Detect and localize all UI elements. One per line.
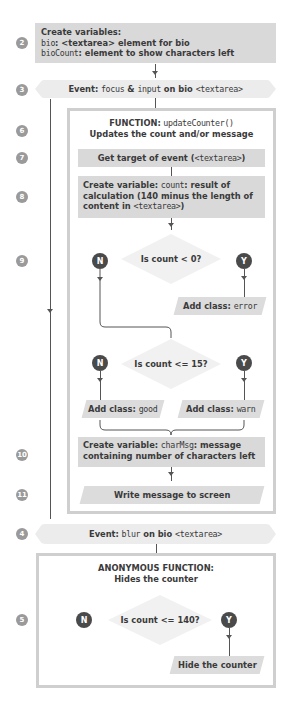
write-message-box: Write message to screen [80, 486, 265, 504]
anon-function-title: ANONYMOUS FUNCTION: [39, 563, 273, 574]
arrow-down-icon [97, 378, 103, 382]
no-branch-badge: N [76, 612, 92, 628]
event-label: Event: [89, 529, 119, 539]
event-code-blur: blur [122, 529, 141, 539]
no-branch-badge: N [92, 355, 108, 371]
hide-counter-box: Hide the counter [170, 656, 265, 674]
add-class-code: good [139, 404, 158, 414]
anon-function-subtitle: Hides the counter [39, 574, 273, 585]
connector-line [100, 371, 101, 403]
arrow-down-icon [226, 635, 232, 639]
anonymous-function-header: ANONYMOUS FUNCTION: Hides the counter [39, 563, 273, 585]
add-class-label: Add class: [186, 404, 237, 414]
step-number-10: 10 [16, 449, 28, 461]
write-message-text: Write message to screen [114, 486, 230, 504]
decision-count-lte-15: Is count <= 15? [121, 339, 221, 389]
connector-line [244, 371, 245, 403]
add-class-warn-box: Add class: warn [178, 400, 265, 418]
decision-count-lte-140: Is count <= 140? [108, 595, 212, 645]
event-blur: Event: blur on bio <textarea> [35, 524, 276, 544]
event-on-text: on bio [140, 529, 175, 539]
add-class-code: warn [237, 404, 256, 414]
yes-branch-badge: Y [221, 612, 237, 628]
decision-label: Is count <= 140? [108, 615, 212, 625]
event-target: <textarea> [175, 529, 222, 539]
decision-label: Is count <= 15? [121, 359, 221, 369]
yes-branch-badge: Y [236, 355, 252, 371]
connector-line [229, 628, 230, 658]
arrow-down-icon [241, 378, 247, 382]
create-charmsg-box: Create variable: charMsg: message contai… [78, 437, 265, 467]
add-class-good-box: Add class: good [82, 400, 165, 418]
arrow-down-icon [168, 472, 174, 476]
charmsg-label: Create variable: [83, 440, 158, 450]
step-number-11: 11 [16, 489, 28, 501]
step-number-5: 5 [16, 614, 28, 626]
hide-counter-text: Hide the counter [178, 656, 257, 674]
add-class-label: Add class: [88, 404, 139, 414]
charmsg-code: charMsg [161, 440, 194, 450]
step-number-4: 4 [16, 528, 28, 540]
